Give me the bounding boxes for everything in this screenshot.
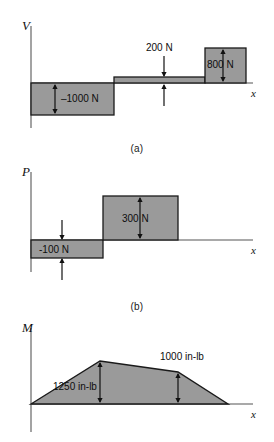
axial-label-300: 300 N — [122, 213, 149, 224]
moment-label-1000: 1000 in-lb — [160, 351, 204, 362]
shear-label-200: 200 N — [146, 42, 173, 53]
axial-force-diagram-panel: -100 N 300 N P x — [0, 158, 274, 308]
arrowhead-up-neg-100-lower — [59, 258, 64, 263]
p-axis-label: P — [21, 164, 30, 179]
moment-label-1250: 1250 in-lb — [53, 381, 97, 392]
axial-label-neg-100: -100 N — [39, 244, 69, 255]
x-axis-label-a: x — [250, 87, 256, 99]
bending-moment-diagram-panel: 1250 in-lb 1000 in-lb M x — [0, 310, 274, 442]
arrowhead-down-neg-100-upper — [59, 235, 64, 240]
m-axis-label: M — [21, 320, 34, 335]
bending-moment-diagram-svg: 1250 in-lb 1000 in-lb M x — [0, 310, 274, 442]
axial-force-diagram-svg: -100 N 300 N P x — [0, 158, 274, 308]
arrowhead-down-200-upper — [161, 72, 166, 77]
arrowhead-up-200-lower — [161, 84, 166, 89]
x-axis-label-b: x — [250, 244, 256, 256]
x-axis-label-c: x — [250, 408, 256, 420]
shear-label-800: 800 N — [207, 59, 234, 70]
caption-a: (a) — [0, 143, 274, 154]
shear-block-200 — [114, 77, 205, 83]
shear-label-neg-1000: –1000 N — [61, 93, 99, 104]
